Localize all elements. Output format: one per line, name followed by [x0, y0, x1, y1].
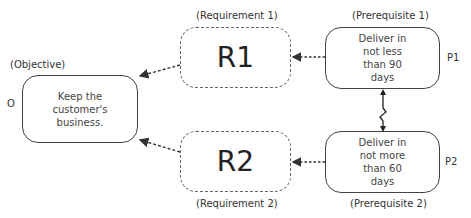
conflict-zigzag-icon: [380, 89, 386, 132]
connector-arrows: [0, 0, 471, 218]
arrow-r1-to-objective: [140, 65, 180, 76]
arrow-r2-to-objective: [140, 140, 180, 152]
